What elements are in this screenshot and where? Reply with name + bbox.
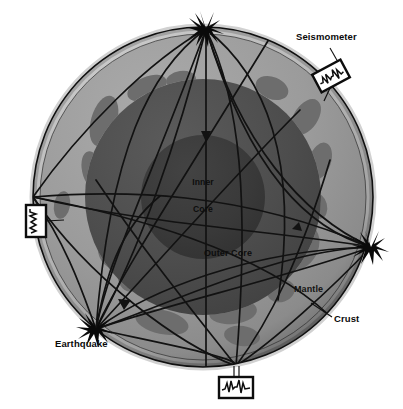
label-outer-core: Outer Core — [204, 249, 252, 258]
label-inner-core-line2: Core — [175, 205, 231, 214]
label-crust: Crust — [334, 314, 359, 324]
label-mantle: Mantle — [294, 285, 323, 294]
seismometer-bottom[interactable] — [219, 366, 253, 398]
label-inner-core-line1: Inner — [175, 178, 231, 187]
seismometer-leader-line — [330, 48, 338, 62]
label-earthquake: Earthquake — [55, 339, 108, 349]
label-inner-core: Inner Core — [175, 160, 231, 223]
label-seismometer: Seismometer — [296, 32, 357, 42]
